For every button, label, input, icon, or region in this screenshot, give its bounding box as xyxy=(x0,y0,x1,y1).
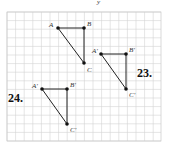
vertex-point xyxy=(82,61,86,65)
vertex-label: A xyxy=(48,21,54,29)
transformation-figure: yABCA′B′C′23.A′B′C′24. xyxy=(0,0,169,149)
vertex-label: B′ xyxy=(70,81,76,89)
triangle-original xyxy=(58,28,84,63)
problem-number: 23. xyxy=(137,66,152,80)
vertex-point xyxy=(82,26,86,30)
vertex-point xyxy=(40,87,44,91)
problem-number: 24. xyxy=(8,91,23,105)
vertex-point xyxy=(65,122,69,126)
vertex-point xyxy=(124,52,128,56)
vertex-label: C′ xyxy=(129,91,136,99)
vertex-label: C xyxy=(87,66,92,74)
vertex-label: A′ xyxy=(91,47,98,55)
vertex-point xyxy=(99,52,103,56)
vertex-label: C′ xyxy=(70,126,77,134)
vertex-point xyxy=(56,26,60,30)
vertex-label: A′ xyxy=(31,82,38,90)
labels: yABCA′B′C′23.A′B′C′24. xyxy=(8,0,152,134)
vertex-point xyxy=(124,87,128,91)
triangles xyxy=(40,26,128,126)
axis-label: y xyxy=(96,0,101,6)
vertex-label: B′ xyxy=(129,46,135,54)
triangle-image xyxy=(101,54,126,89)
vertex-point xyxy=(65,87,69,91)
vertex-label: B xyxy=(87,20,92,28)
